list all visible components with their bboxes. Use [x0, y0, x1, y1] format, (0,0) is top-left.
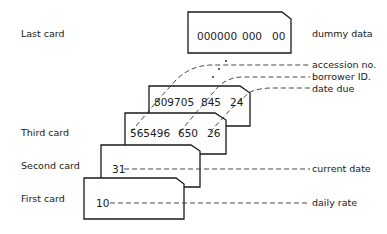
- second-card-field1: 31: [112, 163, 125, 175]
- label-third-card: Third card: [20, 127, 69, 138]
- first-card: 10: [84, 178, 184, 219]
- fourth-card-field2: 845: [201, 96, 221, 108]
- label-dummy-data: dummy data: [312, 28, 373, 39]
- third-card-field1: 565496: [130, 127, 170, 139]
- dot: [212, 76, 214, 78]
- dot: [225, 60, 227, 62]
- card-deck-diagram: Last card Third card Second card First c…: [0, 0, 387, 234]
- last-card: 000000 000 00: [188, 12, 291, 53]
- label-second-card: Second card: [21, 160, 80, 171]
- label-first-card: First card: [21, 193, 65, 204]
- dot: [218, 68, 220, 70]
- label-current-date: current date: [312, 163, 371, 174]
- third-card-field3: 26: [207, 127, 221, 139]
- label-date-due: date due: [312, 83, 354, 94]
- last-card-field2: 000: [242, 30, 262, 42]
- label-accession-no: accession no.: [312, 59, 376, 70]
- first-card-field1: 10: [96, 197, 109, 209]
- label-borrower-id: borrower ID.: [312, 71, 371, 82]
- third-card-field2: 650: [178, 127, 198, 139]
- last-card-field3: 00: [272, 30, 285, 42]
- fourth-card-field3: 24: [230, 96, 244, 108]
- label-daily-rate: daily rate: [312, 197, 357, 208]
- label-last-card: Last card: [21, 28, 65, 39]
- last-card-field1: 000000: [197, 30, 237, 42]
